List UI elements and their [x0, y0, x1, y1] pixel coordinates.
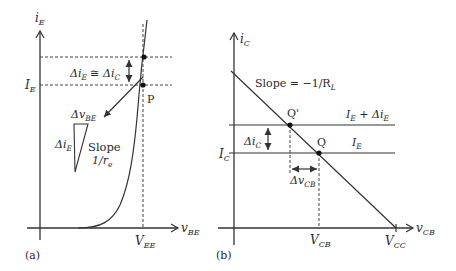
point-p-label: P	[147, 93, 155, 106]
point-p	[140, 82, 145, 87]
q-prime-label: Q'	[287, 107, 299, 120]
ie-line-label: IE	[351, 136, 362, 151]
caption-a: (a)	[25, 249, 40, 262]
q-label: Q	[317, 136, 326, 149]
delta-annotation: ΔiE ≅ ΔiC	[69, 67, 120, 82]
delta-vcb-label: ΔvCB	[289, 174, 316, 189]
slope-label-value: 1/re	[92, 154, 113, 169]
panel-b: iC Slope = −1/RL Q' IE + ΔiE Q IE IC ΔiC…	[216, 32, 435, 262]
slope-label-word: Slope	[88, 140, 121, 154]
point-q-prime	[287, 122, 292, 127]
delta-ie-label: ΔiE	[54, 138, 72, 153]
y-axis-label-ic: iC	[240, 32, 250, 48]
point-q	[316, 150, 321, 155]
slope-label-rl: Slope = −1/RL	[255, 77, 336, 92]
caption-b: (b)	[216, 249, 232, 262]
ie-level-label: IE	[24, 78, 36, 94]
vcb-tick-label: VCB	[310, 233, 331, 249]
x-axis-label-vcb: vCB	[416, 221, 435, 237]
slope-triangle	[74, 124, 88, 172]
vcc-tick-label: VCC	[385, 234, 406, 250]
point-upper	[141, 54, 146, 59]
panel-a: iE IE ΔiE ≅ ΔiC P ΔvBE ΔiE Slope 1/re vB…	[24, 11, 200, 262]
bjt-characteristics-figure: iE IE ΔiE ≅ ΔiC P ΔvBE ΔiE Slope 1/re vB…	[0, 0, 456, 271]
vee-tick-label: VEE	[135, 234, 156, 250]
y-axis-label-ie: iE	[35, 11, 45, 27]
x-axis-label-vbe: vBE	[181, 221, 200, 237]
upper-line-label: IE + ΔiE	[345, 108, 390, 123]
delta-ic-label: ΔiC	[243, 135, 261, 150]
ic-level-label: IC	[218, 147, 230, 163]
delta-vbe-label: ΔvBE	[70, 108, 97, 123]
